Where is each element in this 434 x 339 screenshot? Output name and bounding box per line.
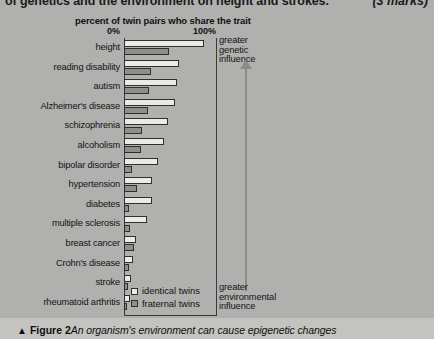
question-text: of genetics and the environment on heigh… xyxy=(5,0,329,8)
bar-fraternal xyxy=(124,68,151,75)
question-line: of genetics and the environment on heigh… xyxy=(0,0,434,13)
bar-fraternal xyxy=(124,185,137,192)
bar-fraternal xyxy=(124,283,128,290)
bar-identical xyxy=(124,256,133,263)
bar-identical xyxy=(124,216,147,223)
bar-fraternal xyxy=(124,205,129,212)
annotation-greater-environmental-influence: greaterenvironmentalinfluence xyxy=(219,283,276,312)
category-label: bipolar disorder xyxy=(2,160,120,170)
bar-identical xyxy=(124,275,131,282)
annotation-environmental-line-3: influence xyxy=(219,302,276,312)
legend-item-identical: identical twins xyxy=(131,285,200,298)
marks-label: (3 marks) xyxy=(372,0,428,8)
figure-number: Figure 2 xyxy=(30,324,71,336)
legend-label-identical: identical twins xyxy=(142,285,200,298)
bar-identical xyxy=(124,295,130,302)
category-label: height xyxy=(2,42,120,52)
chart-axis-title: percent of twin pairs who share the trai… xyxy=(75,15,251,26)
bar-identical xyxy=(124,60,179,67)
bar-fraternal xyxy=(124,87,149,94)
bar-fraternal xyxy=(124,244,134,251)
category-label-column: heightreading disabilityautismAlzheimer'… xyxy=(0,38,120,316)
legend-swatch-identical xyxy=(131,288,138,295)
bar-identical xyxy=(124,177,152,184)
bar-fraternal xyxy=(124,225,130,232)
legend-item-fraternal: fraternal twins xyxy=(131,298,200,311)
category-label: stroke xyxy=(2,277,120,287)
bar-identical xyxy=(124,99,175,106)
category-label: Alzheimer's disease xyxy=(2,101,120,111)
category-label: autism xyxy=(2,81,120,91)
bar-fraternal xyxy=(124,48,169,55)
category-label: Crohn's disease xyxy=(2,258,120,268)
category-label: rheumatoid arthritis xyxy=(2,297,120,307)
bar-plot-area xyxy=(124,38,216,316)
category-label: schizophrenia xyxy=(2,120,120,130)
bar-identical xyxy=(124,79,177,86)
bar-fraternal xyxy=(124,303,127,310)
figure-page: of genetics and the environment on heigh… xyxy=(0,0,434,339)
legend-label-fraternal: fraternal twins xyxy=(142,298,200,311)
chart-legend: identical twinsfraternal twins xyxy=(131,285,200,310)
bar-identical xyxy=(124,118,168,125)
bar-fraternal xyxy=(124,127,142,134)
x-tick-100: 100% xyxy=(193,26,216,36)
bar-fraternal xyxy=(124,264,129,271)
x-tick-0: 0% xyxy=(107,26,120,36)
up-arrow-shaft-icon xyxy=(245,66,247,291)
category-label: reading disability xyxy=(2,62,120,72)
bar-identical xyxy=(124,40,204,47)
bar-fraternal xyxy=(124,107,148,114)
caption-text: An organism's environment can cause epig… xyxy=(71,324,337,336)
category-label: breast cancer xyxy=(2,238,120,248)
category-label: diabetes xyxy=(2,199,120,209)
category-label: multiple sclerosis xyxy=(2,218,120,228)
legend-swatch-fraternal xyxy=(131,300,138,307)
caption-triangle-icon: ▲ xyxy=(17,325,27,336)
bar-identical xyxy=(124,158,158,165)
bar-identical xyxy=(124,236,136,243)
bar-identical xyxy=(124,197,152,204)
figure-caption: ▲Figure 2An organism's environment can c… xyxy=(17,324,336,336)
bar-identical xyxy=(124,138,164,145)
bar-fraternal xyxy=(124,146,141,153)
category-label: hypertension xyxy=(2,179,120,189)
category-label: alcoholism xyxy=(2,140,120,150)
bar-fraternal xyxy=(124,166,132,173)
